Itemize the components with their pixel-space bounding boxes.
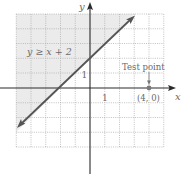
y-tick-label: 1 — [82, 70, 88, 80]
x-tick-label: 1 — [102, 93, 108, 103]
y-axis-label: y — [78, 1, 85, 12]
inequality-label: y ≥ x + 2 — [26, 46, 72, 57]
test-point-coords: (4, 0) — [137, 93, 160, 103]
test-point-dot — [147, 86, 152, 91]
x-axis-label: x — [175, 91, 181, 102]
inequality-graph: y x 1 1 y ≥ x + 2 Test point (4, 0) — [0, 0, 184, 175]
test-point-label: Test point — [122, 62, 165, 72]
test-point — [147, 72, 152, 90]
arrow-down-icon — [147, 81, 151, 86]
